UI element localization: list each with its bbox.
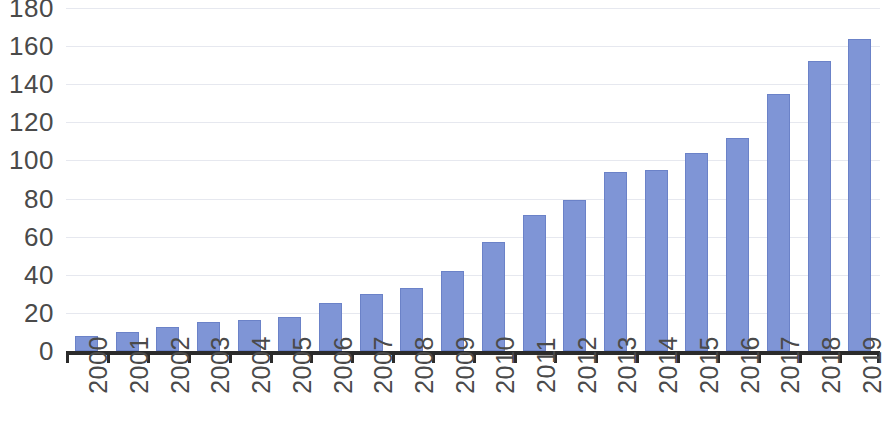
x-label-slot: 2013: [595, 363, 636, 433]
bar-slot: [432, 8, 473, 351]
x-axis-tick-label: 2019: [860, 336, 885, 394]
y-axis-tick-label: 160: [9, 33, 54, 59]
bar-slot: [839, 8, 880, 351]
bar[interactable]: [808, 61, 831, 351]
y-axis-tick-label: 20: [24, 300, 54, 326]
x-label-slot: 2009: [432, 363, 473, 433]
y-axis-tick-label: 80: [24, 186, 54, 212]
x-label-slot: 2015: [677, 363, 718, 433]
x-label-slot: 2004: [229, 363, 270, 433]
bar-slot: [147, 8, 188, 351]
x-label-slot: 2018: [799, 363, 840, 433]
x-label-slot: 2017: [758, 363, 799, 433]
bar[interactable]: [726, 138, 749, 351]
bar[interactable]: [848, 39, 871, 352]
y-axis-tick-labels: 180 160 140 120 100 80 60 40 20 0: [0, 0, 62, 433]
bar-chart: 180 160 140 120 100 80 60 40 20 0 200020…: [0, 0, 888, 433]
x-label-slot: 2010: [473, 363, 514, 433]
x-label-slot: 2012: [554, 363, 595, 433]
bar[interactable]: [604, 172, 627, 351]
bar-slot: [717, 8, 758, 351]
bar-slot: [514, 8, 555, 351]
bar[interactable]: [645, 170, 668, 351]
y-axis-tick-label: 100: [9, 147, 54, 173]
bar-slot: [758, 8, 799, 351]
y-axis-tick-label: 0: [39, 338, 54, 364]
x-label-slot: 2008: [392, 363, 433, 433]
y-axis-tick-label: 180: [9, 0, 54, 21]
x-label-slot: 2007: [351, 363, 392, 433]
bar[interactable]: [523, 215, 546, 351]
bar-slot: [351, 8, 392, 351]
plot-area: [66, 8, 880, 351]
bar-series: [66, 8, 880, 351]
bar-slot: [392, 8, 433, 351]
bar[interactable]: [482, 242, 505, 351]
x-label-slot: 2011: [514, 363, 555, 433]
x-label-slot: 2001: [107, 363, 148, 433]
bar-slot: [107, 8, 148, 351]
y-axis-tick-label: 140: [9, 71, 54, 97]
bar-slot: [310, 8, 351, 351]
bar-slot: [677, 8, 718, 351]
bar-slot: [595, 8, 636, 351]
x-label-slot: 2019: [839, 363, 880, 433]
x-label-slot: 2016: [717, 363, 758, 433]
y-axis-tick-label: 60: [24, 224, 54, 250]
bar[interactable]: [767, 94, 790, 351]
bar-slot: [229, 8, 270, 351]
bar-slot: [188, 8, 229, 351]
x-label-slot: 2005: [270, 363, 311, 433]
x-label-slot: 2003: [188, 363, 229, 433]
bar[interactable]: [685, 153, 708, 351]
x-label-slot: 2014: [636, 363, 677, 433]
x-label-slot: 2000: [66, 363, 107, 433]
x-axis-tick: [66, 351, 69, 363]
x-label-slot: 2006: [310, 363, 351, 433]
bar[interactable]: [563, 200, 586, 351]
bar-slot: [66, 8, 107, 351]
x-axis-tick-labels: 2000200120022003200420052006200720082009…: [66, 363, 880, 433]
bar-slot: [270, 8, 311, 351]
x-label-slot: 2002: [147, 363, 188, 433]
bar-slot: [636, 8, 677, 351]
y-axis-tick-label: 40: [24, 262, 54, 288]
bar-slot: [799, 8, 840, 351]
y-axis-tick-label: 120: [9, 109, 54, 135]
bar-slot: [473, 8, 514, 351]
bar-slot: [554, 8, 595, 351]
